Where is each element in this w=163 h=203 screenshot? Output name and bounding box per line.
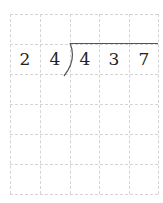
grid-line <box>10 74 158 75</box>
division-grid <box>10 14 158 194</box>
grid-line <box>10 134 158 135</box>
grid-line <box>158 14 159 194</box>
divisor-digit: 2 <box>10 44 40 74</box>
grid-line <box>10 104 158 105</box>
grid-line <box>10 14 158 15</box>
grid-line <box>10 164 158 165</box>
grid-line <box>10 194 158 195</box>
dividend-digit: 7 <box>129 44 159 74</box>
dividend-digit: 3 <box>99 44 129 74</box>
dividend-digit: 4 <box>70 44 100 74</box>
